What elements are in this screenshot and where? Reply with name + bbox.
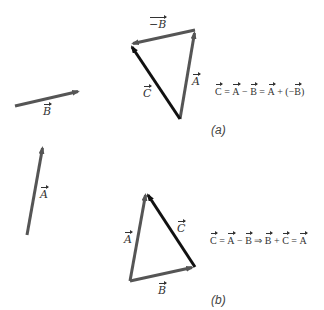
equation-panel-a: C = A − B = A + (−B)	[215, 86, 304, 97]
vector-c-panel-b	[148, 195, 195, 267]
eq-term: A	[268, 86, 275, 97]
eq-op: + (−	[275, 86, 295, 97]
vector-symbol: A	[40, 189, 48, 200]
eq-op: =	[222, 86, 233, 97]
vector-neg-b-panel-a	[133, 30, 195, 44]
eq-term: B	[294, 86, 301, 97]
vector-symbol: B	[158, 285, 166, 296]
caption-panel-a: (a)	[211, 123, 226, 137]
caption-panel-b: (b)	[211, 293, 226, 307]
vector-symbol: −B	[149, 19, 166, 30]
label-neg-b-panel-a: −B	[149, 19, 166, 30]
eq-op: ⇒	[252, 235, 265, 246]
eq-op: −	[240, 86, 251, 97]
eq-term: C	[215, 86, 222, 97]
eq-term: C	[210, 235, 217, 246]
label-c-panel-b: C	[177, 223, 185, 234]
eq-term: C	[282, 235, 289, 246]
eq-op: )	[301, 86, 304, 97]
vector-diagram-canvas	[0, 0, 324, 310]
eq-term: B	[250, 86, 257, 97]
vector-b-panel-b	[130, 268, 192, 282]
vector-symbol: A	[192, 76, 200, 87]
eq-term: A	[232, 86, 239, 97]
vector-symbol: C	[177, 223, 185, 234]
vector-a-panel-b	[130, 195, 146, 281]
vector-symbol: C	[143, 88, 151, 99]
label-b-standalone: B	[43, 106, 51, 117]
vector-symbol: A	[124, 234, 132, 245]
label-a-standalone: A	[40, 189, 48, 200]
label-c-panel-a: C	[143, 88, 151, 99]
equation-panel-b: C = A − B ⇒ B + C = A	[210, 235, 307, 246]
eq-term: A	[227, 235, 234, 246]
vector-c-panel-a	[132, 47, 180, 119]
label-b-panel-b: B	[158, 285, 166, 296]
eq-term: B	[245, 235, 252, 246]
vector-symbol: B	[43, 106, 51, 117]
label-a-panel-a: A	[192, 76, 200, 87]
eq-term: A	[299, 235, 306, 246]
eq-op: =	[289, 235, 300, 246]
eq-op: +	[272, 235, 283, 246]
eq-op: =	[217, 235, 228, 246]
label-a-panel-b: A	[124, 234, 132, 245]
eq-term: B	[265, 235, 272, 246]
eq-op: =	[257, 86, 268, 97]
eq-op: −	[235, 235, 246, 246]
